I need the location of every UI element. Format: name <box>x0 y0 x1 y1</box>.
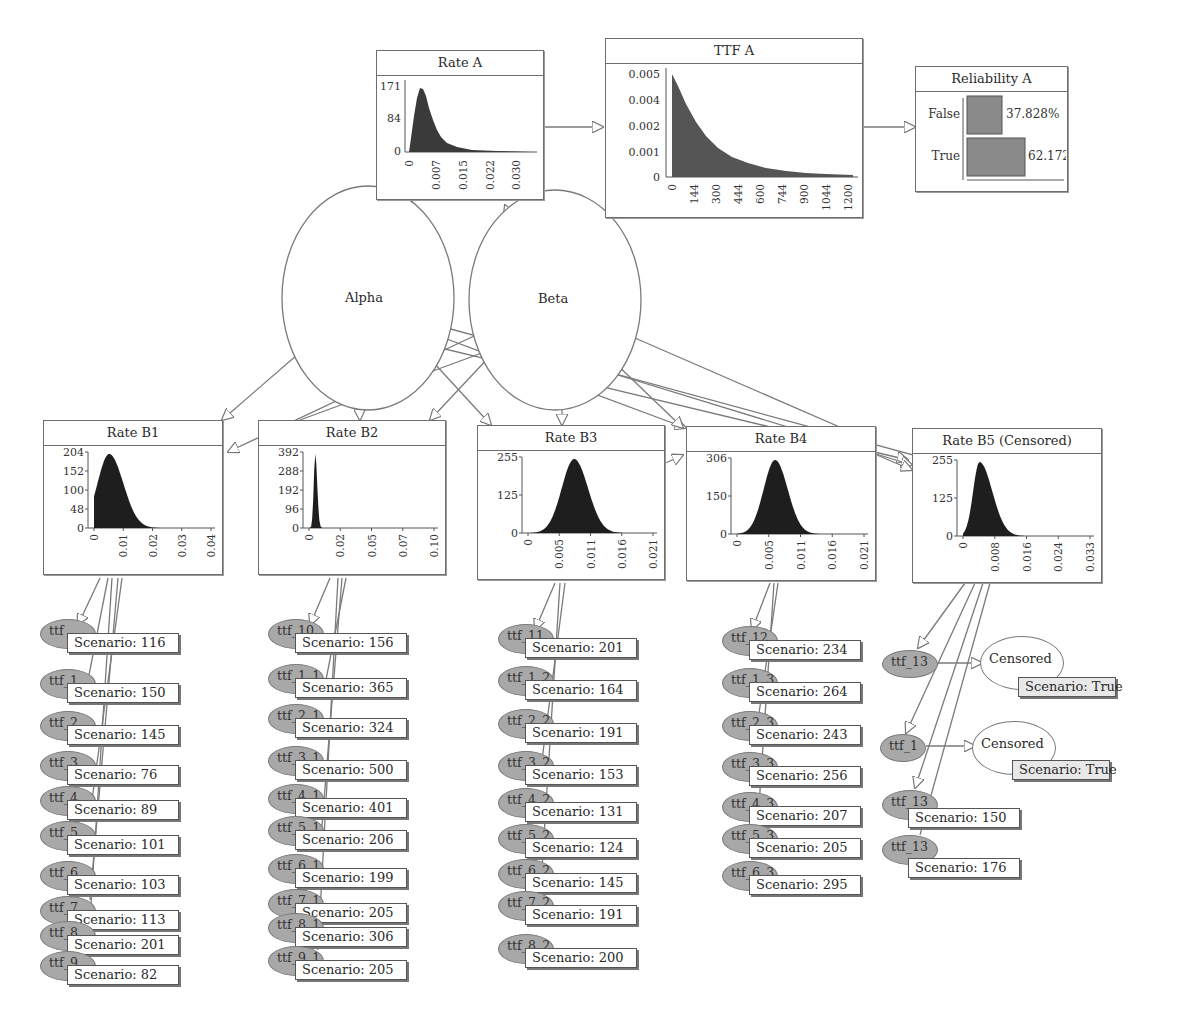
scenario-label: Scenario: 295 <box>749 875 861 895</box>
scenario-label: Scenario: 264 <box>749 682 861 702</box>
svg-text:150: 150 <box>706 490 727 503</box>
svg-text:900: 900 <box>798 184 810 204</box>
rate-b2-histogram: 39228819296000.020.050.070.10 <box>259 446 444 574</box>
svg-text:0.01: 0.01 <box>117 534 129 557</box>
scenario-label: Scenario: 82 <box>67 965 179 985</box>
rate-b3-node[interactable]: Rate B3255125000.0050.0110.0160.021 <box>477 425 665 580</box>
svg-text:0.016: 0.016 <box>1021 542 1033 572</box>
svg-text:0.001: 0.001 <box>629 146 661 159</box>
svg-text:171: 171 <box>380 80 401 93</box>
reliability-a-node[interactable]: Reliability A False True 62.172% 37.828%… <box>915 66 1068 192</box>
svg-text:0: 0 <box>720 528 727 541</box>
scenario-label: Scenario: 200 <box>525 948 637 968</box>
scenario-label: Scenario: 201 <box>525 638 637 658</box>
svg-text:0.021: 0.021 <box>647 539 659 569</box>
svg-text:0.033: 0.033 <box>1084 542 1096 572</box>
scenario-label: Scenario: 191 <box>525 723 637 743</box>
ttf-a-node[interactable]: TTF A 0.005 0.004 0.002 0.001 0 0 144 30… <box>605 38 863 218</box>
reliability-a-title: Reliability A <box>916 67 1067 92</box>
svg-text:0: 0 <box>88 534 100 541</box>
svg-text:False: False <box>928 107 960 121</box>
svg-text:0: 0 <box>77 522 84 535</box>
svg-text:100: 100 <box>63 484 84 497</box>
bar-true <box>967 138 1025 176</box>
scenario-label: Scenario: 256 <box>749 766 861 786</box>
svg-text:0.022: 0.022 <box>484 160 496 190</box>
svg-text:48: 48 <box>70 503 84 516</box>
svg-text:0.005: 0.005 <box>629 68 661 81</box>
scenario-label: Scenario: 205 <box>295 960 407 980</box>
rate-b3-histogram: 255125000.0050.0110.0160.021 <box>478 451 663 579</box>
rate-b5-histogram: 255125000.0080.0160.0240.033 <box>913 454 1100 582</box>
scenario-label: Scenario: 150 <box>67 683 179 703</box>
ttf-a-histogram: 0.005 0.004 0.002 0.001 0 0 144 300 444 … <box>606 64 861 216</box>
scenario-label: Scenario: 145 <box>525 873 637 893</box>
rate-a-node[interactable]: Rate A 171 84 0 0 0.007 0.015 0.022 0.03… <box>376 50 544 200</box>
svg-text:152: 152 <box>63 465 84 478</box>
svg-text:0: 0 <box>511 527 518 540</box>
scenario-label: Scenario: 243 <box>749 725 861 745</box>
scenario-label: Scenario: 103 <box>67 875 179 895</box>
svg-text:0.004: 0.004 <box>629 94 661 107</box>
svg-text:744: 744 <box>776 184 788 204</box>
svg-text:255: 255 <box>932 454 953 467</box>
rate-b4-title: Rate B4 <box>687 427 875 452</box>
rate-b5-node[interactable]: Rate B5 (Censored)255125000.0080.0160.02… <box>912 428 1102 583</box>
svg-text:0: 0 <box>731 540 743 547</box>
svg-text:0.05: 0.05 <box>366 534 378 557</box>
scenario-label: Scenario: 116 <box>67 633 179 653</box>
svg-text:444: 444 <box>732 184 744 204</box>
scenario-label: Scenario: 500 <box>295 760 407 780</box>
svg-text:0: 0 <box>666 184 678 191</box>
scenario-label: Scenario: 191 <box>525 905 637 925</box>
scenario-label: Scenario: True <box>1012 760 1110 780</box>
rate-b4-node[interactable]: Rate B4306150000.0050.0110.0160.021 <box>686 426 876 581</box>
ttf-node[interactable]: ttf_1 <box>880 734 926 762</box>
svg-text:392: 392 <box>278 446 299 459</box>
svg-text:0.011: 0.011 <box>585 539 597 569</box>
scenario-label: Scenario: 324 <box>295 718 407 738</box>
svg-text:288: 288 <box>278 465 299 478</box>
svg-text:0.007: 0.007 <box>430 160 442 190</box>
beta-node-label: Beta <box>538 291 568 306</box>
svg-text:0.011: 0.011 <box>795 540 807 570</box>
svg-text:0.002: 0.002 <box>629 120 661 133</box>
scenario-label: Scenario: 306 <box>295 927 407 947</box>
scenario-label: Scenario: 207 <box>749 806 861 826</box>
scenario-label: Scenario: 199 <box>295 868 407 888</box>
scenario-label: Scenario: 164 <box>525 680 637 700</box>
rate-a-histogram: 171 84 0 0 0.007 0.015 0.022 0.030 <box>377 76 542 198</box>
scenario-label: Scenario: 124 <box>525 838 637 858</box>
ttf-a-title: TTF A <box>606 39 862 64</box>
rate-b2-title: Rate B2 <box>259 421 445 446</box>
scenario-label: Scenario: 101 <box>67 835 179 855</box>
svg-text:0.02: 0.02 <box>334 534 346 557</box>
ttf-node[interactable]: ttf_13 <box>882 650 938 678</box>
svg-text:600: 600 <box>754 184 766 204</box>
svg-text:0.03: 0.03 <box>176 534 188 557</box>
svg-text:0.02: 0.02 <box>147 534 159 557</box>
svg-text:0: 0 <box>653 171 660 184</box>
svg-text:0: 0 <box>394 145 401 158</box>
svg-text:True: True <box>931 149 960 163</box>
bayesian-network-canvas: Alpha Beta Rate A 171 84 0 0 0.007 0.015… <box>0 0 1184 1026</box>
svg-text:306: 306 <box>706 452 727 465</box>
rate-b1-node[interactable]: Rate B120415210048000.010.020.030.04 <box>43 420 223 575</box>
rate-a-title: Rate A <box>377 51 543 76</box>
scenario-label: Scenario: 156 <box>295 633 407 653</box>
svg-text:0: 0 <box>303 534 315 541</box>
svg-text:0.04: 0.04 <box>205 534 217 558</box>
svg-text:0.024: 0.024 <box>1052 542 1064 572</box>
svg-text:0: 0 <box>292 522 299 535</box>
svg-text:0.005: 0.005 <box>553 539 565 569</box>
svg-text:125: 125 <box>497 489 518 502</box>
svg-text:0: 0 <box>522 539 534 546</box>
bar-false <box>967 96 1002 134</box>
alpha-node-label: Alpha <box>345 290 383 305</box>
scenario-label: Scenario: 365 <box>295 678 407 698</box>
rate-b2-node[interactable]: Rate B239228819296000.020.050.070.10 <box>258 420 446 575</box>
svg-text:0: 0 <box>403 160 415 167</box>
scenario-label: Scenario: 150 <box>908 808 1020 828</box>
svg-text:192: 192 <box>278 484 299 497</box>
svg-text:0.10: 0.10 <box>428 534 440 557</box>
